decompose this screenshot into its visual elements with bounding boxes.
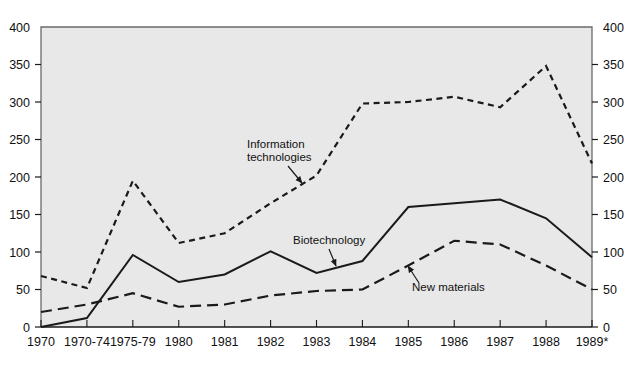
x-axis-tick-label: 1981 bbox=[211, 335, 239, 349]
plot-background bbox=[41, 27, 592, 327]
y-axis-tick-label-right: 200 bbox=[603, 171, 624, 185]
y-axis-tick-label-left: 0 bbox=[23, 321, 30, 335]
y-axis-tick-label-left: 100 bbox=[9, 246, 30, 260]
x-axis-tick-label: 1970 bbox=[27, 335, 55, 349]
y-axis-tick-label-left: 50 bbox=[16, 283, 30, 297]
x-axis-tick-label: 1980 bbox=[165, 335, 193, 349]
y-axis-tick-label-right: 350 bbox=[603, 58, 624, 72]
chart-container: 050100150200250300350400 050100150200250… bbox=[0, 0, 633, 370]
y-axis-tick-label-right: 0 bbox=[603, 321, 610, 335]
y-axis-tick-label-right: 300 bbox=[603, 96, 624, 110]
annotation-label-biotechnology: Biotechnology bbox=[293, 234, 365, 246]
x-axis-tick-label: 1987 bbox=[486, 335, 514, 349]
x-axis-tick-label: 1975-79 bbox=[110, 335, 156, 349]
y-axis-tick-label-left: 300 bbox=[9, 96, 30, 110]
x-axis-tick-label: 1970-74 bbox=[64, 335, 110, 349]
y-axis-tick-label-right: 400 bbox=[603, 21, 624, 35]
line-chart: 050100150200250300350400 050100150200250… bbox=[0, 0, 633, 370]
x-axis-tick-label: 1984 bbox=[349, 335, 377, 349]
y-axis-tick-label-left: 200 bbox=[9, 171, 30, 185]
annotation-label-new-materials: New materials bbox=[412, 281, 485, 293]
y-axis-tick-label-right: 50 bbox=[603, 283, 617, 297]
y-axis-tick-label-left: 250 bbox=[9, 133, 30, 147]
x-axis-tick-label: 1985 bbox=[394, 335, 422, 349]
y-axis-tick-label-left: 400 bbox=[9, 21, 30, 35]
y-axis-tick-label-right: 150 bbox=[603, 208, 624, 222]
y-axis-tick-label-right: 100 bbox=[603, 246, 624, 260]
x-axis-tick-label: 1983 bbox=[303, 335, 331, 349]
x-axis-tick-label: 1982 bbox=[257, 335, 285, 349]
annotation-label-information-technologies: technologies bbox=[247, 151, 312, 163]
x-axis-tick-label: 1988 bbox=[532, 335, 560, 349]
x-axis-tick-label: 1989* bbox=[576, 335, 609, 349]
x-axis-tick-label: 1986 bbox=[440, 335, 468, 349]
y-axis-tick-label-right: 250 bbox=[603, 133, 624, 147]
annotation-label-information-technologies: Information bbox=[247, 138, 305, 150]
y-axis-tick-label-left: 350 bbox=[9, 58, 30, 72]
y-axis-tick-label-left: 150 bbox=[9, 208, 30, 222]
